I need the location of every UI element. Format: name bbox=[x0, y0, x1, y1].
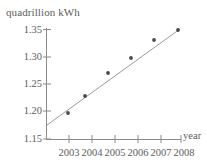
trend-line-group bbox=[47, 29, 180, 125]
x-axis-group bbox=[47, 135, 182, 143]
data-point-2004 bbox=[83, 94, 87, 98]
data-point-2005 bbox=[106, 71, 110, 75]
data-point-2007 bbox=[152, 38, 156, 42]
plot-area bbox=[0, 0, 207, 168]
data-point-2008 bbox=[176, 28, 180, 32]
trend-line bbox=[47, 29, 180, 125]
data-point-2006 bbox=[129, 56, 133, 60]
data-point-2003 bbox=[66, 111, 70, 115]
chart-figure: quadrillion kWh year 1.35 1.30 1.25 1.20… bbox=[0, 0, 207, 168]
